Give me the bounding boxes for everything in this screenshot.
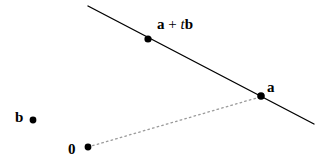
vector-line-diagram: a + tb a b 0	[0, 0, 336, 168]
label-a-plus-tb: a + tb	[157, 17, 193, 32]
point-a-plus-tb	[144, 35, 151, 42]
label-plus-operator: +	[165, 16, 181, 32]
point-a	[257, 92, 265, 100]
point-b	[30, 117, 37, 124]
label-vector-a: a	[157, 16, 165, 32]
point-origin	[85, 144, 92, 151]
line-through-a	[88, 6, 314, 124]
label-point-a: a	[267, 80, 275, 95]
label-origin: 0	[68, 142, 76, 157]
label-vector-b: b	[185, 16, 193, 32]
label-point-b: b	[15, 110, 23, 125]
vector-from-origin-to-a	[88, 97, 260, 147]
